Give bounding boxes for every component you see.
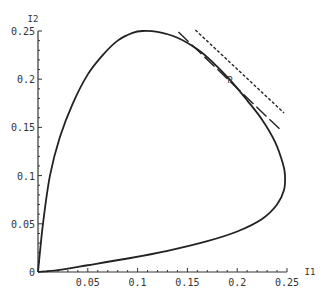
series	[38, 30, 285, 272]
y-axis-label: I2	[28, 14, 39, 24]
y-tick-label: 0.2	[17, 74, 35, 85]
x-tick-label: 0.2	[228, 277, 246, 288]
x-tick-label: 0.25	[275, 277, 299, 288]
axes	[38, 31, 287, 272]
y-tick-label: 0.15	[11, 122, 35, 133]
y-tick-label: 0.25	[11, 26, 35, 37]
x-axis-label: I1	[305, 267, 316, 277]
annotations: P	[227, 75, 233, 85]
boundary-curve	[38, 31, 285, 272]
x-tick-label: 0.05	[76, 277, 100, 288]
y-tick-label: 0	[29, 267, 35, 278]
y-tick-label: 0.05	[11, 219, 35, 230]
ticks	[38, 31, 287, 272]
chart: 0.050.10.150.20.2500.050.10.150.20.25 I2…	[0, 0, 328, 293]
y-tick-label: 0.1	[17, 171, 35, 182]
x-tick-label: 0.1	[129, 277, 147, 288]
tangent-line	[195, 30, 284, 113]
x-tick-label: 0.15	[175, 277, 199, 288]
point-label: P	[227, 75, 233, 85]
